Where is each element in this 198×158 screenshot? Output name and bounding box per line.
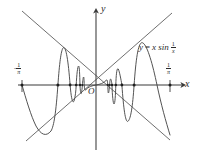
zero-crossing-dot [111,84,113,86]
equation-lhs: y [139,42,143,52]
zero-crossing-dot [69,84,72,87]
envelope-upper-line [26,13,172,141]
axis-label-y: y [101,4,105,14]
tick-label-right-fraction: 1π [166,62,171,76]
tick-label-left-denominator: π [16,68,21,75]
tick-label-negative-one-over-pi: -1π [14,62,21,76]
zero-crossing-dot [56,84,59,87]
zero-crossing-dot [75,84,78,87]
tick-label-one-over-pi: 1π [166,62,171,76]
zero-crossing-dot [81,84,83,86]
zero-crossing-dot [109,84,111,86]
equation-rhs-prefix: x sin [152,42,169,52]
graph-canvas [0,0,198,158]
axis-label-x: x [185,79,189,89]
zero-crossing-dot [79,84,81,86]
zero-crossing-dot [133,84,136,87]
zero-crossing-dot [21,84,24,87]
equation-fraction: 1x [171,41,176,55]
zero-crossing-dot [169,84,172,87]
zero-crossing-dot [115,84,118,87]
equation-fraction-denominator: x [171,47,176,54]
zero-crossing-dot [121,84,124,87]
curve-equation-label: y=x sin1x [139,41,176,55]
tick-label-left-fraction: 1π [16,62,21,76]
tick-label-right-denominator: π [166,68,171,75]
equation-relation: = [145,42,150,52]
origin-label: O [88,87,95,96]
function-graph-figure: y x O -1π 1π y=x sin1x [0,0,198,158]
